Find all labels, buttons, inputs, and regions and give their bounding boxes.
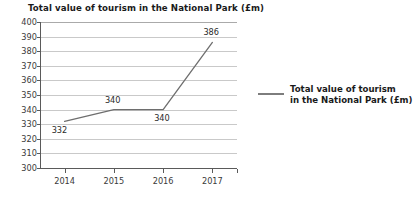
y-axis-label-360: 360 xyxy=(3,75,37,85)
gridline-310 xyxy=(40,153,237,154)
gridline-350 xyxy=(40,95,237,96)
x-tick-mark-2014 xyxy=(65,169,66,173)
y-axis-label-340: 340 xyxy=(3,105,37,115)
gridline-370 xyxy=(40,66,237,67)
y-axis-label-400: 400 xyxy=(3,17,37,27)
gridline-400 xyxy=(40,22,237,23)
gridline-300 xyxy=(40,168,237,169)
gridline-380 xyxy=(40,51,237,52)
gridline-360 xyxy=(40,80,237,81)
y-axis-label-320: 320 xyxy=(3,134,37,144)
x-tick-mark-2015 xyxy=(114,169,115,173)
y-axis-label-330: 330 xyxy=(3,119,37,129)
y-axis-label-310: 310 xyxy=(3,148,37,158)
y-axis-label-350: 350 xyxy=(3,90,37,100)
x-axis-label-2017: 2017 xyxy=(192,176,232,186)
chart-title: Total value of tourism in the National P… xyxy=(28,3,264,13)
x-axis-label-2015: 2015 xyxy=(94,176,134,186)
gridline-320 xyxy=(40,139,237,140)
y-axis-label-380: 380 xyxy=(3,46,37,56)
legend-label-line1: Total value of tourism xyxy=(290,84,413,95)
y-axis-line xyxy=(40,22,41,169)
y-axis-label-390: 390 xyxy=(3,32,37,42)
gridline-340 xyxy=(40,110,237,111)
data-label-2017: 386 xyxy=(203,27,219,37)
gridline-330 xyxy=(40,124,237,125)
x-tick-mark-2016 xyxy=(163,169,164,173)
y-axis-label-300: 300 xyxy=(3,163,37,173)
x-axis-label-2014: 2014 xyxy=(45,176,85,186)
x-axis-label-2016: 2016 xyxy=(143,176,183,186)
legend-line-swatch xyxy=(258,93,284,95)
data-label-2014: 332 xyxy=(52,125,68,135)
y-axis-label-370: 370 xyxy=(3,61,37,71)
y-axis-ticks: 400390380370360350340330320310300 xyxy=(0,22,37,168)
data-label-2015: 340 xyxy=(105,95,121,105)
legend-label: Total value of tourism in the National P… xyxy=(290,84,413,106)
x-tick-mark-2017 xyxy=(212,169,213,173)
legend-label-line2: in the National Park (£m) xyxy=(290,95,413,106)
plot-area xyxy=(40,22,237,168)
x-axis-end-tick xyxy=(237,169,238,173)
data-label-2016: 340 xyxy=(154,113,170,123)
